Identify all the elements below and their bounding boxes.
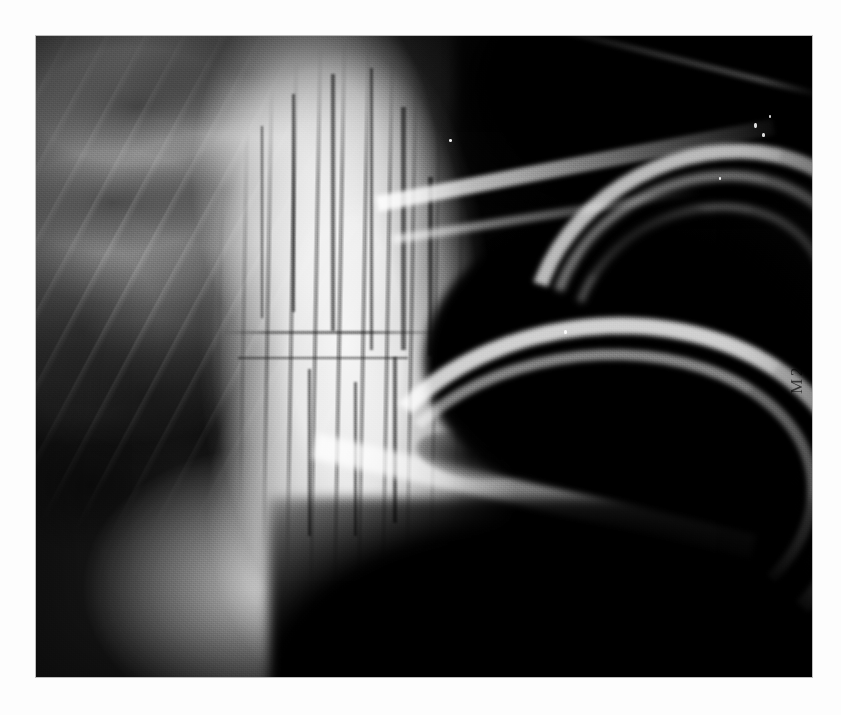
radiograph-image: M2( <box>36 36 812 677</box>
ghost-caption-artifact <box>150 688 670 706</box>
page-background: M2( <box>0 0 841 715</box>
film-vignette <box>36 36 812 677</box>
edge-marking-text: M2( <box>788 336 810 414</box>
